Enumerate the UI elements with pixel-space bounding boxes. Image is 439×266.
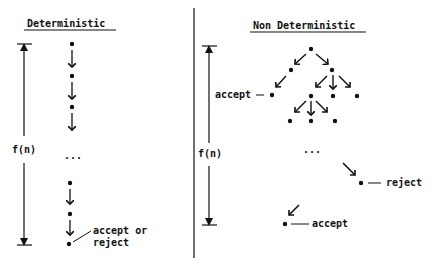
- deterministic-panel: Deterministic f(n) ... accept or reject: [12, 18, 147, 248]
- reject-label: reject: [386, 177, 422, 188]
- accept-label-upper: accept: [215, 89, 251, 100]
- f-n-label: f(n): [12, 144, 36, 155]
- f-n-label: f(n): [198, 148, 222, 159]
- accept-or-label: accept or: [93, 225, 147, 236]
- deterministic-title: Deterministic: [27, 18, 105, 29]
- deterministic-chain: ...: [64, 42, 91, 246]
- ellipsis: ...: [64, 150, 82, 161]
- diagram-canvas: Deterministic f(n) ... accept or reject: [0, 0, 439, 266]
- ellipsis: ...: [303, 144, 321, 155]
- computation-tree: ...: [270, 47, 381, 226]
- nondeterministic-panel: Non Deterministic f(n): [198, 20, 422, 229]
- nondeterministic-title: Non Deterministic: [253, 20, 355, 31]
- reject-label: reject: [93, 237, 129, 248]
- accept-label-lower: accept: [312, 218, 348, 229]
